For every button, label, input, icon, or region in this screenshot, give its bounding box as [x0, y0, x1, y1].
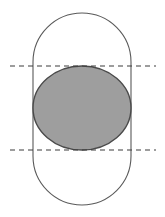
- shaded-ellipse-shape: [33, 66, 131, 150]
- figure-canvas: [0, 0, 165, 217]
- geometric-figure: [0, 0, 165, 217]
